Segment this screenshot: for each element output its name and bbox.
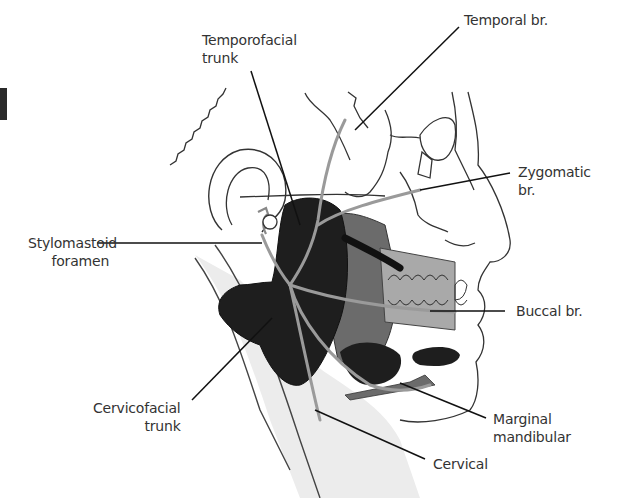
label-line: Stylomastoid <box>28 234 117 252</box>
label-temporofacial-trunk: Temporofacial trunk <box>202 31 297 67</box>
leader-zygomatic <box>420 173 510 190</box>
leader-temporofacial <box>251 71 300 225</box>
label-line: Buccal br. <box>516 302 583 320</box>
hairline-outline <box>170 88 226 165</box>
zygoma-outline <box>345 110 420 197</box>
label-zygomatic-branch: Zygomatic br. <box>518 163 591 199</box>
label-cervical-branch: Cervical <box>433 455 488 473</box>
label-line: Zygomatic <box>518 163 591 181</box>
ear-canal <box>263 215 277 229</box>
leader-marginal-mandibular <box>400 383 486 418</box>
label-line: Marginal <box>493 410 571 428</box>
label-line: foramen <box>28 252 117 270</box>
nose-line <box>445 240 475 246</box>
label-line: trunk <box>93 417 181 435</box>
label-buccal-branch: Buccal br. <box>516 302 583 320</box>
label-marginal-mandibular: Marginal mandibular <box>493 410 571 446</box>
label-line: trunk <box>202 49 297 67</box>
parotid-gland <box>219 198 348 385</box>
orbit-outline <box>418 118 456 178</box>
sphenoid-outline <box>348 92 368 128</box>
mandible-dark-shape <box>412 347 460 366</box>
label-line: Cervical <box>433 455 488 473</box>
label-line: Temporal br. <box>464 11 548 29</box>
label-cervicofacial-trunk: Cervicofacial trunk <box>93 399 181 435</box>
label-line: Cervicofacial <box>93 399 181 417</box>
label-line: mandibular <box>493 428 571 446</box>
submandibular-gland <box>340 343 401 385</box>
label-stylomastoid-foramen: Stylomastoid foramen <box>28 234 117 270</box>
label-line: Temporofacial <box>202 31 297 49</box>
maxilla-outline <box>400 172 448 232</box>
leader-temporal <box>355 27 459 130</box>
label-temporal-branch: Temporal br. <box>464 11 548 29</box>
label-line: br. <box>518 181 591 199</box>
